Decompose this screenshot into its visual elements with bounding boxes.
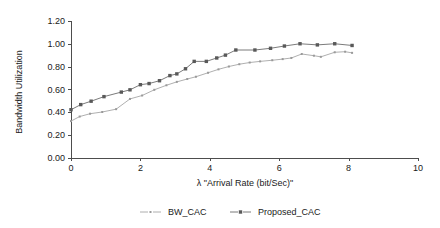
data-point-marker (344, 51, 346, 53)
data-point-marker (333, 42, 336, 45)
data-point-marker (168, 74, 171, 77)
data-point-marker (176, 81, 178, 83)
data-point-marker (184, 67, 187, 70)
y-tick-label: 1.20 (47, 16, 65, 26)
x-tick-label: 4 (207, 163, 212, 173)
data-point-marker (215, 56, 218, 59)
data-point-marker (102, 95, 105, 98)
data-point-marker (205, 60, 208, 63)
y-tick-label: 0.00 (47, 153, 65, 163)
data-point-marker (165, 84, 167, 86)
data-point-marker (316, 43, 319, 46)
legend-label: BW_CAC (168, 207, 207, 217)
data-point-marker (158, 79, 161, 82)
data-point-marker (89, 113, 91, 115)
y-tick-label: 0.60 (47, 85, 65, 95)
x-tick-label: 2 (138, 163, 143, 173)
data-point-marker (79, 116, 81, 118)
data-point-marker (207, 72, 209, 74)
x-tick-label: 6 (277, 163, 282, 173)
data-point-marker (259, 60, 261, 62)
x-axis-title-group: λ "Arrival Rate (bit/Sec)" (197, 178, 293, 188)
y-tick-label: 1.00 (47, 39, 65, 49)
data-point-marker (139, 83, 142, 86)
data-point-marker (115, 108, 117, 110)
plot-background (0, 0, 440, 228)
legend-marker (150, 211, 152, 213)
x-tick-label: 10 (413, 163, 423, 173)
data-point-marker (224, 53, 227, 56)
bandwidth-utilization-line-chart: 0.000.200.400.600.801.001.20 0246810 Ban… (0, 0, 440, 228)
data-point-marker (147, 82, 150, 85)
y-axis-title: Bandwidth Utilization (14, 50, 24, 134)
data-point-marker (141, 95, 143, 97)
data-point-marker (186, 78, 188, 80)
data-point-marker (69, 108, 72, 111)
data-point-marker (128, 88, 131, 91)
data-point-marker (269, 47, 272, 50)
data-point-marker (282, 58, 284, 60)
data-point-marker (253, 48, 256, 51)
data-point-marker (129, 98, 131, 100)
data-point-marker (234, 48, 237, 51)
y-tick-label: 0.80 (47, 62, 65, 72)
data-point-marker (79, 103, 82, 106)
data-point-marker (228, 66, 230, 68)
data-point-marker (301, 53, 303, 55)
data-point-marker (283, 44, 286, 47)
data-point-marker (351, 52, 353, 54)
legend-marker (239, 210, 242, 213)
data-point-marker (120, 90, 123, 93)
legend-label: Proposed_CAC (258, 207, 321, 217)
chart-figure: 0.000.200.400.600.801.001.20 0246810 Ban… (0, 0, 440, 228)
data-point-marker (217, 68, 219, 70)
data-point-marker (290, 57, 292, 59)
data-point-marker (350, 44, 353, 47)
data-point-marker (334, 51, 336, 53)
x-axis-title: λ "Arrival Rate (bit/Sec)" (197, 178, 293, 188)
x-tick-label: 8 (346, 163, 351, 173)
data-point-marker (89, 99, 92, 102)
data-point-marker (192, 60, 195, 63)
x-tick-label: 0 (68, 163, 73, 173)
y-axis-title-group: Bandwidth Utilization (14, 50, 24, 134)
data-point-marker (271, 59, 273, 61)
data-point-marker (249, 62, 251, 64)
data-point-marker (175, 72, 178, 75)
data-point-marker (320, 56, 322, 58)
data-point-marker (298, 42, 301, 45)
data-point-marker (238, 63, 240, 65)
y-tick-label: 0.40 (47, 107, 65, 117)
data-point-marker (195, 76, 197, 78)
y-tick-label: 0.20 (47, 130, 65, 140)
data-point-marker (313, 55, 315, 57)
data-point-marker (70, 120, 72, 122)
data-point-marker (153, 89, 155, 91)
data-point-marker (101, 111, 103, 113)
